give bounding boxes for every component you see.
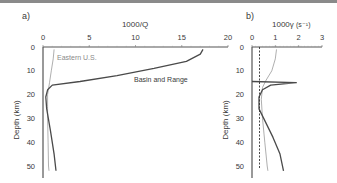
- series-line: [46, 49, 203, 170]
- x-tick-label: 10: [131, 33, 139, 42]
- y-tick-label: 20: [27, 90, 35, 99]
- y-tick-label: 30: [236, 114, 244, 123]
- y-tick-label: 10: [27, 66, 35, 75]
- y-tick-label: 50: [236, 162, 244, 171]
- x-tick-label: 15: [178, 33, 186, 42]
- eastern-us-annotation: Eastern U.S.: [57, 54, 97, 61]
- x-tick-label: 0: [41, 33, 45, 42]
- y-tick-label: 50: [27, 162, 35, 171]
- figure: a) b) 1000/Q 1000γ (s⁻¹) Depth (km) Dept…: [0, 0, 337, 183]
- x-tick-label: 0: [250, 33, 254, 42]
- panel-b-label: b): [246, 11, 254, 21]
- panel-b-xlabel-unit: (s⁻¹): [296, 21, 311, 29]
- y-tick-label: 40: [236, 138, 244, 147]
- series-line: [48, 49, 55, 170]
- chart-canvas: a) b) 1000/Q 1000γ (s⁻¹) Depth (km) Dept…: [0, 0, 337, 183]
- x-tick-label: 2: [297, 33, 301, 42]
- series-line: [252, 82, 296, 171]
- panel-b-plot: 012301020304050: [236, 33, 324, 178]
- panel-a-xlabel: 1000/Q: [122, 20, 148, 29]
- x-tick-label: 20: [224, 33, 232, 42]
- y-tick-label: 10: [236, 66, 244, 75]
- x-tick-label: 5: [87, 33, 91, 42]
- series-line: [261, 49, 276, 170]
- x-tick-label: 3: [320, 33, 324, 42]
- panel-b-xlabel: 1000γ (s⁻¹): [272, 20, 311, 29]
- x-tick-label: 1: [273, 33, 277, 42]
- y-tick-label: 30: [27, 114, 35, 123]
- panel-b-ylabel: Depth (km): [221, 100, 230, 140]
- y-tick-label: 40: [27, 138, 35, 147]
- panel-a-label: a): [22, 11, 30, 21]
- basin-range-annotation: Basin and Range: [134, 76, 188, 84]
- y-tick-label: 0: [240, 43, 244, 52]
- y-tick-label: 0: [31, 43, 35, 52]
- panel-b-xlabel-main: 1000γ: [272, 20, 294, 29]
- panel-a-ylabel: Depth (km): [12, 100, 21, 140]
- y-tick-label: 20: [236, 90, 244, 99]
